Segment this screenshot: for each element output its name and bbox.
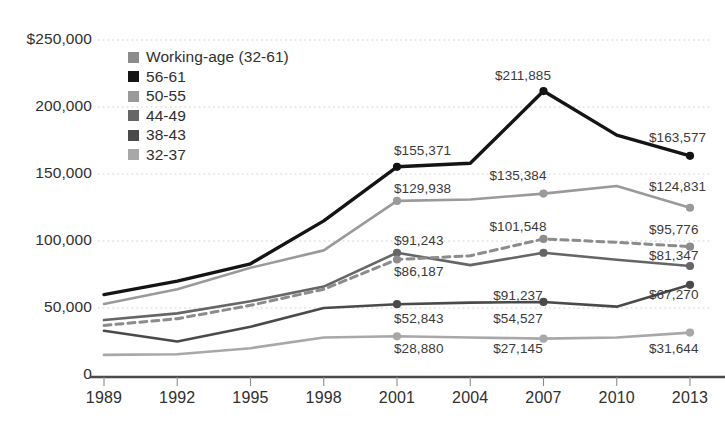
data-label-32-37: $27,145 [458,341,578,356]
legend-item-38-43[interactable]: 38-43 [128,126,289,145]
legend-item-label: 38-43 [146,126,186,144]
data-point-marker [539,249,547,257]
x-axis-tick-1992: 1992 [137,389,217,407]
data-point-marker [686,262,694,270]
data-label-56-61: $211,885 [463,68,583,83]
data-label-working-age-32-61-: $86,187 [394,264,444,279]
x-axis-tick-2004: 2004 [430,389,510,407]
x-axis-tick-1995: 1995 [211,389,291,407]
chart-legend: Working-age (32-61)56-6150-5544-4938-433… [128,48,289,164]
legend-item-label: Working-age (32-61) [146,48,289,66]
data-label-38-43: $54,527 [458,311,578,326]
data-point-marker [539,189,547,197]
data-label-working-age-32-61-: $101,548 [458,219,578,234]
legend-item-working-age-32-61-[interactable]: Working-age (32-61) [128,48,289,67]
legend-item-32-37[interactable]: 32-37 [128,146,289,165]
data-label-working-age-32-61-: $95,776 [649,222,699,237]
data-label-38-43: $67,270 [649,287,699,302]
legend-swatch-icon [128,71,139,82]
data-point-marker [686,152,694,160]
data-point-marker [393,197,401,205]
data-label-32-37: $31,644 [649,341,699,356]
x-axis-tick-1998: 1998 [284,389,364,407]
legend-item-50-55[interactable]: 50-55 [128,87,289,106]
data-label-50-55: $129,938 [394,181,451,196]
data-label-56-61: $163,577 [649,130,706,145]
chart-container: $250,000200,000150,000100,00050,0000 198… [0,0,725,426]
legend-item-label: 32-37 [146,146,186,164]
plot-area [0,0,725,426]
data-point-marker [393,163,401,171]
data-label-50-55: $124,831 [649,179,706,194]
legend-item-label: 56-61 [146,68,186,86]
legend-swatch-icon [128,130,139,141]
data-label-44-49: $91,237 [458,288,578,303]
data-point-marker [539,235,547,243]
data-label-38-43: $52,843 [394,311,444,326]
data-point-marker [686,328,694,336]
data-point-marker [393,332,401,340]
x-axis-tick-2010: 2010 [577,389,657,407]
legend-swatch-icon [128,110,139,121]
legend-swatch-icon [128,52,139,63]
x-axis-tick-2001: 2001 [357,389,437,407]
x-axis-tick-2007: 2007 [504,389,584,407]
data-label-56-61: $155,371 [394,143,451,158]
legend-swatch-icon [128,149,139,160]
x-axis-tick-2013: 2013 [650,389,725,407]
data-point-marker [393,300,401,308]
data-point-marker [393,255,401,263]
legend-item-label: 44-49 [146,107,186,125]
x-axis-tick-1989: 1989 [64,389,144,407]
data-label-44-49: $81,347 [649,248,699,263]
data-point-marker [539,87,547,95]
data-label-32-37: $28,880 [394,341,444,356]
legend-item-44-49[interactable]: 44-49 [128,107,289,126]
legend-item-56-61[interactable]: 56-61 [128,68,289,87]
data-label-44-49: $91,243 [394,233,444,248]
legend-swatch-icon [128,91,139,102]
data-label-50-55: $135,384 [458,168,578,183]
legend-item-label: 50-55 [146,87,186,105]
data-point-marker [686,204,694,212]
